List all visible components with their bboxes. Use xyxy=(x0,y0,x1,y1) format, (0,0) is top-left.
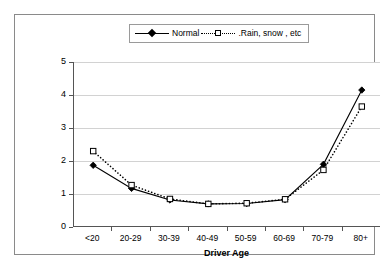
y-tick-label: 1 xyxy=(44,189,66,198)
x-tick-label: 80+ xyxy=(338,234,384,243)
data-point-marker-diamond xyxy=(359,87,365,93)
data-point-marker-square xyxy=(129,182,134,187)
x-axis-title: Driver Age xyxy=(73,248,380,258)
y-tick-label: 0 xyxy=(44,222,66,231)
legend-key-solid-diamond-icon xyxy=(135,28,169,39)
data-point-marker-square xyxy=(167,196,172,201)
legend-entry-rain-snow: .Rain, snow , etc xyxy=(201,25,303,42)
x-tick-mark xyxy=(342,227,343,231)
data-point-marker-square xyxy=(90,148,95,153)
chart-frame: Normal .Rain, snow , etc Crash Involveme… xyxy=(14,14,375,255)
y-tick-label: 4 xyxy=(44,90,66,99)
data-point-marker-diamond xyxy=(90,162,96,168)
legend-label-normal: Normal xyxy=(169,29,201,38)
y-tick-label: 3 xyxy=(44,123,66,132)
legend-key-dotted-square-icon xyxy=(201,28,235,39)
chart-container: Normal .Rain, snow , etc Crash Involveme… xyxy=(0,0,387,271)
x-tick-mark xyxy=(265,227,266,231)
x-tick-mark xyxy=(227,227,228,231)
plot-area xyxy=(73,62,380,227)
y-tick-label: 2 xyxy=(44,156,66,165)
data-point-marker-square xyxy=(244,201,249,206)
legend-label-rain-snow: .Rain, snow , etc xyxy=(235,29,303,38)
data-point-marker-square xyxy=(359,104,364,109)
legend-entry-normal: Normal xyxy=(135,25,201,42)
x-tick-mark xyxy=(188,227,189,231)
data-point-marker-square xyxy=(321,167,326,172)
x-tick-mark xyxy=(111,227,112,231)
data-point-marker-square xyxy=(206,201,211,206)
y-tick-label: 5 xyxy=(44,57,66,66)
y-tick-mark xyxy=(69,227,73,228)
x-tick-mark xyxy=(303,227,304,231)
chart-legend: Normal .Rain, snow , etc xyxy=(129,24,309,43)
series-layer xyxy=(74,62,381,227)
data-point-marker-square xyxy=(282,197,287,202)
x-tick-mark xyxy=(150,227,151,231)
